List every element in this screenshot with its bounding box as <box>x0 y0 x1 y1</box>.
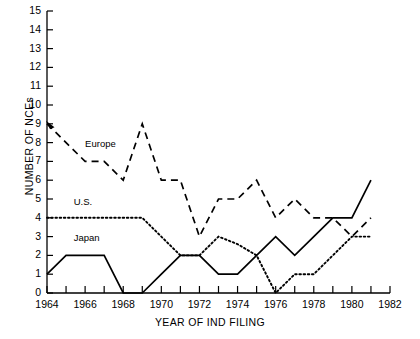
x-tick-label: 1978 <box>294 298 334 310</box>
x-tick-label: 1970 <box>141 298 181 310</box>
y-tick-label: 14 <box>19 23 41 35</box>
series-label-japan: Japan <box>74 232 100 243</box>
chart-plot-area <box>0 0 420 339</box>
y-tick-label: 4 <box>19 211 41 223</box>
x-tick-label: 1980 <box>332 298 372 310</box>
x-tick-label: 1966 <box>65 298 105 310</box>
x-tick-label: 1964 <box>27 298 67 310</box>
x-tick-label: 1972 <box>179 298 219 310</box>
y-tick-label: 13 <box>19 42 41 54</box>
y-tick-label: 1 <box>19 267 41 279</box>
y-tick-label: 5 <box>19 192 41 204</box>
x-tick-label: 1974 <box>218 298 258 310</box>
y-tick-label: 11 <box>19 79 41 91</box>
x-tick-label: 1982 <box>370 298 410 310</box>
x-tick-label: 1968 <box>103 298 143 310</box>
y-tick-label: 15 <box>19 4 41 16</box>
y-tick-label: 3 <box>19 230 41 242</box>
y-tick-label: 6 <box>19 173 41 185</box>
series-label-us: U.S. <box>74 196 92 207</box>
series-label-europe: Europe <box>85 138 116 149</box>
y-tick-label: 10 <box>19 98 41 110</box>
y-tick-label: 7 <box>19 154 41 166</box>
chart-tick-marks <box>47 11 390 293</box>
x-tick-label: 1976 <box>256 298 296 310</box>
y-tick-label: 0 <box>19 286 41 298</box>
y-tick-label: 8 <box>19 136 41 148</box>
y-tick-label: 2 <box>19 248 41 260</box>
y-tick-label: 9 <box>19 117 41 129</box>
chart-figure: NUMBER OF NCEs YEAR OF IND FILING 012345… <box>0 0 420 339</box>
chart-axes <box>47 11 390 293</box>
y-tick-label: 12 <box>19 60 41 72</box>
